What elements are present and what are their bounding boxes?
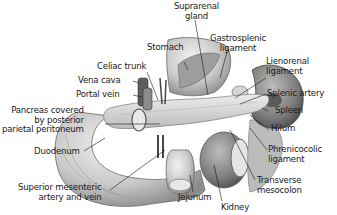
label-lienorenal-ligament: Lienorenal ligament (266, 57, 309, 76)
portal-vein-shape (143, 88, 152, 110)
label-superior-mesenteric: Superior mesenteric artery and vein (18, 183, 101, 202)
label-phrenicocolic-ligament: Phrenicocolic ligament (268, 145, 322, 164)
label-transverse-mesocolon: Transverse mesocolon (257, 176, 302, 195)
label-pancreas: Pancreas covered by posterior parietal p… (2, 106, 84, 135)
label-gastrosplenic-ligament: Gastrosplenic ligament (210, 34, 266, 53)
label-celiac-trunk: Celiac trunk (97, 62, 146, 72)
label-duodenum: Duodenum (34, 147, 80, 157)
label-kidney: Kidney (221, 203, 249, 213)
pancreas-shape (104, 94, 269, 128)
label-stomach: Stomach (147, 43, 184, 53)
label-suprarenal-gland: Suprarenal gland (174, 2, 219, 21)
label-spleen: Spleen (275, 106, 303, 116)
label-vena-cava: Vena cava (78, 76, 121, 86)
label-hilum: Hilum (271, 124, 295, 134)
label-splenic-artery: Splenic artery (267, 89, 324, 99)
label-jejunum: Jejunum (178, 193, 212, 203)
anatomy-diagram: Suprarenal gland Stomach Gastrosplenic l… (0, 0, 337, 215)
label-portal-vein: Portal vein (76, 90, 119, 100)
